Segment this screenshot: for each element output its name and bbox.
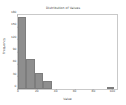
y-tick-mark	[17, 51, 18, 52]
x-tick-label: 80	[92, 90, 96, 93]
y-tick-mark	[17, 64, 18, 65]
x-tick-label: 0	[17, 90, 19, 93]
histogram-bar	[43, 81, 51, 89]
histogram-bar	[18, 17, 26, 89]
plot-axes: 0306090120150180020406080100	[17, 14, 118, 90]
y-tick-label: 60	[13, 60, 17, 63]
x-tick-label: 60	[73, 90, 77, 93]
chart-title: Distribution of Values	[0, 6, 126, 10]
y-tick-mark	[17, 39, 18, 40]
x-tick-label: 100	[110, 90, 116, 93]
x-tick-label: 40	[54, 90, 58, 93]
y-axis-label: Frequency	[2, 33, 6, 59]
y-tick-mark	[17, 14, 18, 15]
x-tick-label: 20	[35, 90, 39, 93]
figure-canvas: Distribution of Values 03060901201501800…	[0, 0, 126, 105]
plot-area	[18, 15, 117, 89]
y-tick-mark	[17, 27, 18, 28]
y-tick-label: 180	[11, 11, 17, 14]
y-tick-label: 120	[11, 35, 17, 38]
y-tick-label: 90	[13, 48, 17, 51]
y-tick-label: 30	[13, 72, 17, 75]
histogram-bar	[26, 59, 34, 89]
y-tick-mark	[17, 76, 18, 77]
x-axis-label: Value	[17, 97, 118, 101]
y-tick-label: 150	[11, 23, 17, 26]
histogram-bar	[35, 73, 43, 89]
y-tick-label: 0	[15, 85, 17, 88]
